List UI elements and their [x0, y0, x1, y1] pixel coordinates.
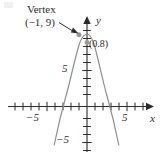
- y-axis-label: y: [96, 15, 101, 26]
- x-tick-label-5: 5: [122, 112, 128, 123]
- vertex-leader-arrow: [59, 23, 79, 34]
- x-axis: [8, 102, 154, 111]
- vertex-label-coords: (−1, 9): [25, 17, 55, 28]
- vertex-label-word: Vertex: [27, 4, 56, 15]
- x-tick-label-minus5: −5: [26, 112, 39, 123]
- graph-figure: Vertex (−1, 9) (0.8) y x 5 −5 −5 5: [0, 0, 165, 161]
- y-intercept-label: (0.8): [89, 39, 108, 49]
- y-tick-label-5: 5: [62, 63, 68, 74]
- x-axis-label: x: [150, 113, 155, 124]
- y-tick-label-minus5: −5: [56, 134, 69, 145]
